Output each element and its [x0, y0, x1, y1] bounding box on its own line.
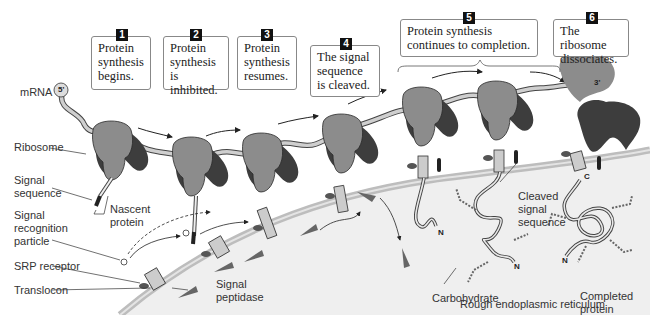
step-1-box: 1 Protein synthesis begins. [91, 36, 151, 90]
label-cleaved-signal-sequence: Cleaved signal sequence [518, 190, 574, 229]
label-srp: Signal recognition particle [14, 209, 76, 248]
step-2-badge: 2 [190, 29, 202, 41]
step-5-bracket [398, 60, 560, 72]
srp-pathway-diagram: 1 Protein synthesis begins. 2 Protein sy… [0, 0, 650, 315]
step-5-box: 5 Protein synthesis continues to complet… [400, 19, 538, 57]
step-4-badge: 4 [340, 38, 352, 50]
step-3-text: Protein synthesis resumes. [244, 41, 290, 83]
ribosome-2 [172, 137, 228, 196]
label-signal-peptidase: Signal peptidase [216, 278, 266, 304]
ribosome-1 [92, 121, 148, 180]
label-three-prime: 3' [594, 78, 600, 87]
n-terminus-2: N [514, 262, 520, 271]
srp-particle [121, 259, 127, 265]
step-1-badge: 1 [116, 29, 128, 41]
label-five-prime: 5' [58, 85, 64, 94]
step-4-text: The signal sequence is cleaved. [317, 50, 370, 92]
label-nascent-protein: Nascent protein [110, 203, 160, 229]
label-mrna: mRNA [20, 86, 52, 99]
step-6-box: 6 The ribosome dissociates. [553, 19, 629, 57]
label-translocon: Translocon [14, 284, 68, 297]
step-6-text: The ribosome dissociates. [560, 24, 617, 66]
label-srp-receptor: SRP receptor [14, 260, 80, 273]
label-ribosome: Ribosome [14, 141, 64, 154]
step-1-text: Protein synthesis begins. [98, 41, 144, 83]
label-signal-sequence: Signal sequence [14, 174, 59, 200]
ribosome-5 [402, 87, 458, 146]
dissociated-ribosome [560, 51, 641, 152]
n-terminus-3: N [562, 256, 568, 265]
step-2-box: 2 Protein synthesis is inhibited. [163, 36, 229, 90]
step-2-text: Protein synthesis is inhibited. [170, 41, 218, 97]
step-5-text: Protein synthesis continues to completio… [407, 24, 530, 52]
step-3-badge: 3 [261, 29, 273, 41]
n-terminus-1: N [438, 228, 444, 237]
step-5-badge: 5 [463, 12, 475, 24]
step-6-badge: 6 [586, 12, 598, 24]
step-3-box: 3 Protein synthesis resumes. [237, 36, 297, 90]
step-4-box: 4 The signal sequence is cleaved. [310, 45, 380, 97]
nascent-protein-1 [96, 178, 112, 206]
c-terminus: C [584, 172, 590, 181]
label-rough-er: Rough endoplasmic reticulum [460, 298, 605, 311]
nascent-protein-2 [183, 196, 196, 244]
